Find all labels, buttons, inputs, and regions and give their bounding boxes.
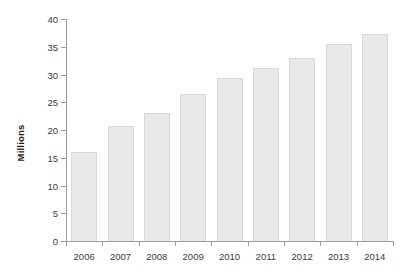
- x-axis-tick-mark: [211, 241, 212, 246]
- x-axis-tick-mark: [357, 241, 358, 246]
- x-axis-tick-mark: [66, 241, 67, 246]
- y-axis-title: Millions: [0, 0, 40, 278]
- x-axis-tick-label: 2013: [328, 251, 349, 262]
- y-axis-tick-mark: [61, 130, 66, 131]
- y-axis-title-label: Millions: [15, 125, 26, 162]
- x-axis-tick-mark: [139, 241, 140, 246]
- x-axis-tick-label: 2007: [110, 251, 131, 262]
- y-axis-tick-mark: [61, 19, 66, 20]
- x-axis-tick-mark: [284, 241, 285, 246]
- y-axis-tick-mark: [61, 102, 66, 103]
- y-axis-tick-mark: [61, 75, 66, 76]
- x-axis-line: [66, 241, 394, 242]
- y-axis-tick-label: 20: [47, 125, 58, 136]
- y-axis-tick-label: 10: [47, 180, 58, 191]
- x-axis-tick-mark: [102, 241, 103, 246]
- x-axis-tick-label: 2006: [74, 251, 95, 262]
- x-axis-tick-mark: [248, 241, 249, 246]
- x-axis-tick-mark: [175, 241, 176, 246]
- y-axis-tick-label: 15: [47, 152, 58, 163]
- y-axis-tick-label: 30: [47, 69, 58, 80]
- y-axis-tick-label: 35: [47, 41, 58, 52]
- bar: [144, 113, 170, 241]
- y-axis-tick-label: 5: [53, 208, 58, 219]
- x-axis-tick-label: 2008: [146, 251, 167, 262]
- bar: [108, 126, 134, 241]
- bar: [289, 58, 315, 241]
- plot-area: 0510152025303540: [66, 19, 393, 241]
- bar: [362, 34, 388, 241]
- bar: [217, 78, 243, 241]
- y-axis-tick-mark: [61, 213, 66, 214]
- bar: [180, 94, 206, 241]
- y-axis-tick-label: 40: [47, 14, 58, 25]
- bar-chart: Millions 0510152025303540 20062007200820…: [0, 0, 420, 278]
- bar: [326, 44, 352, 241]
- x-axis-tick-label: 2009: [183, 251, 204, 262]
- y-axis-tick-mark: [61, 47, 66, 48]
- x-axis-tick-mark: [320, 241, 321, 246]
- bar: [253, 68, 279, 241]
- x-axis-tick-label: 2010: [219, 251, 240, 262]
- bar: [71, 152, 97, 241]
- y-axis-tick-label: 0: [53, 236, 58, 247]
- x-axis-tick-label: 2011: [256, 251, 276, 262]
- y-axis-tick-label: 25: [47, 97, 58, 108]
- x-axis-tick-label: 2014: [364, 251, 385, 262]
- x-axis-tick-mark: [393, 241, 394, 246]
- y-axis-tick-mark: [61, 158, 66, 159]
- x-axis-tick-label: 2012: [292, 251, 313, 262]
- y-axis-tick-mark: [61, 186, 66, 187]
